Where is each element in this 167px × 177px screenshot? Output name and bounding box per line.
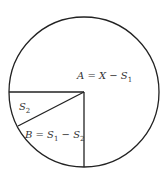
- label-s2: S2: [19, 102, 30, 115]
- label-a: A = X − S1: [77, 71, 132, 84]
- label-b: B = S1 − S2: [25, 130, 84, 143]
- diagram-canvas: [0, 0, 167, 177]
